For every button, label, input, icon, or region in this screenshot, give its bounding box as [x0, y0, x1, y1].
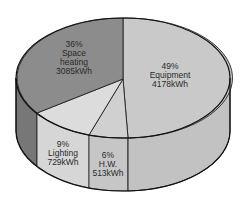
pie-chart-3d: 36% Space heating 3085kWh 49% Equipment …	[0, 0, 241, 210]
svg-text:729kWh: 729kWh	[47, 157, 78, 167]
svg-text:4178kWh: 4178kWh	[152, 79, 188, 89]
svg-text:3085kWh: 3085kWh	[56, 66, 92, 76]
svg-text:513kWh: 513kWh	[92, 168, 123, 178]
